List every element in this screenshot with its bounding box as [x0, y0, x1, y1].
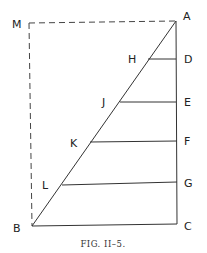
- label-G: G: [184, 177, 193, 190]
- line-AC: [176, 21, 177, 224]
- line-KF: [90, 141, 177, 142]
- line-AB: [32, 21, 176, 226]
- dashed-line-MB: [29, 23, 32, 226]
- label-C: C: [184, 220, 192, 233]
- label-J: J: [101, 96, 105, 109]
- line-LG: [62, 182, 177, 185]
- label-A: A: [183, 10, 191, 23]
- label-L: L: [42, 179, 49, 192]
- figure-caption: FIG. II–5.: [80, 239, 125, 249]
- label-M: M: [12, 18, 22, 31]
- geometry-figure: M A H D J E K F L G B C FIG. II–5.: [0, 0, 207, 253]
- label-E: E: [184, 96, 191, 109]
- label-H: H: [128, 53, 136, 66]
- label-K: K: [70, 137, 78, 150]
- dashed-line-MA: [29, 21, 176, 23]
- label-D: D: [184, 53, 192, 66]
- line-BC: [32, 224, 177, 226]
- label-B: B: [13, 222, 21, 235]
- label-F: F: [184, 135, 190, 148]
